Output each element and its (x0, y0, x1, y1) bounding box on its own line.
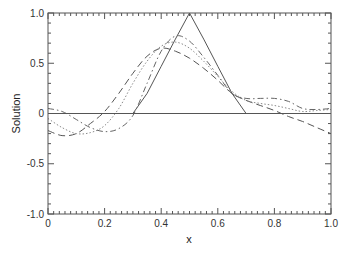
x-tick-label: 0.4 (154, 218, 168, 229)
series-dash-dot (48, 36, 331, 132)
series-long-dash (48, 48, 331, 136)
y-tick-label: -0.5 (27, 158, 45, 169)
data-series (48, 13, 331, 136)
line-chart: 00.20.40.60.81.0-1.0-0.500.51.0 x Soluti… (0, 0, 349, 255)
series-exact (48, 13, 331, 114)
x-tick-label: 0 (45, 218, 51, 229)
y-tick-label: -1.0 (27, 209, 45, 220)
x-tick-label: 1.0 (324, 218, 338, 229)
y-axis-title: Solution (10, 94, 22, 134)
y-tick-label: 0 (38, 108, 44, 119)
series-dotted (48, 42, 331, 134)
x-tick-label: 0.8 (267, 218, 281, 229)
x-tick-label: 0.6 (211, 218, 225, 229)
y-tick-label: 1.0 (30, 8, 44, 19)
x-axis-title: x (186, 233, 192, 245)
y-tick-label: 0.5 (30, 58, 44, 69)
x-tick-label: 0.2 (98, 218, 112, 229)
